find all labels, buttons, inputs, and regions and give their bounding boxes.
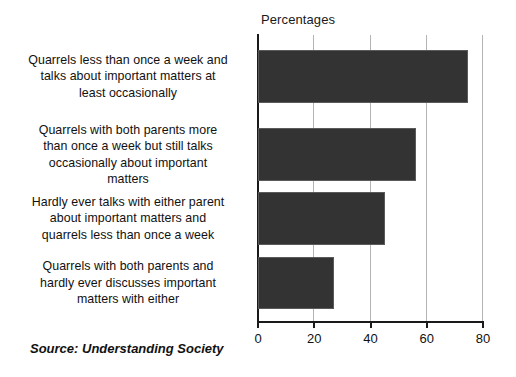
source-note: Source: Understanding Society	[30, 341, 224, 356]
category-label-line: matters	[4, 171, 252, 188]
category-label-line: about important matters and	[4, 210, 252, 227]
gridline-80	[482, 35, 483, 322]
bar	[258, 128, 416, 181]
tick-mark-80	[482, 321, 484, 328]
tick-label-0: 0	[238, 331, 278, 346]
tick-mark-0	[257, 321, 259, 328]
category-label-line: than once a week but still talks	[4, 138, 252, 155]
category-label: Quarrels with both parents morethan once…	[4, 122, 252, 188]
chart-title: Percentages	[261, 12, 335, 27]
bar	[258, 257, 334, 309]
category-label: Quarrels with both parents andhardly eve…	[4, 258, 252, 308]
category-label-line: Hardly ever talks with either parent	[4, 194, 252, 211]
category-label: Hardly ever talks with either parentabou…	[4, 194, 252, 244]
bar	[258, 50, 468, 103]
tick-mark-40	[370, 321, 372, 328]
category-label-line: quarrels less than once a week	[4, 227, 252, 244]
tick-label-80: 80	[463, 331, 503, 346]
tick-mark-60	[426, 321, 428, 328]
tick-label-60: 60	[407, 331, 447, 346]
category-label-line: matters with either	[4, 291, 252, 308]
tick-label-20: 20	[294, 331, 334, 346]
category-label-line: least occasionally	[4, 85, 252, 102]
category-label-line: Quarrels with both parents and	[4, 258, 252, 275]
category-label-line: Quarrels less than once a week and	[4, 52, 252, 69]
tick-label-40: 40	[351, 331, 391, 346]
tick-mark-20	[313, 321, 315, 328]
bar	[258, 192, 385, 245]
category-label-line: Quarrels with both parents more	[4, 122, 252, 139]
category-label: Quarrels less than once a week andtalks …	[4, 52, 252, 102]
category-label-line: occasionally about important	[4, 155, 252, 172]
category-label-line: hardly ever discusses important	[4, 275, 252, 292]
category-label-line: talks about important matters at	[4, 68, 252, 85]
chart-figure: Percentages 020406080 Quarrels less than…	[0, 0, 516, 377]
